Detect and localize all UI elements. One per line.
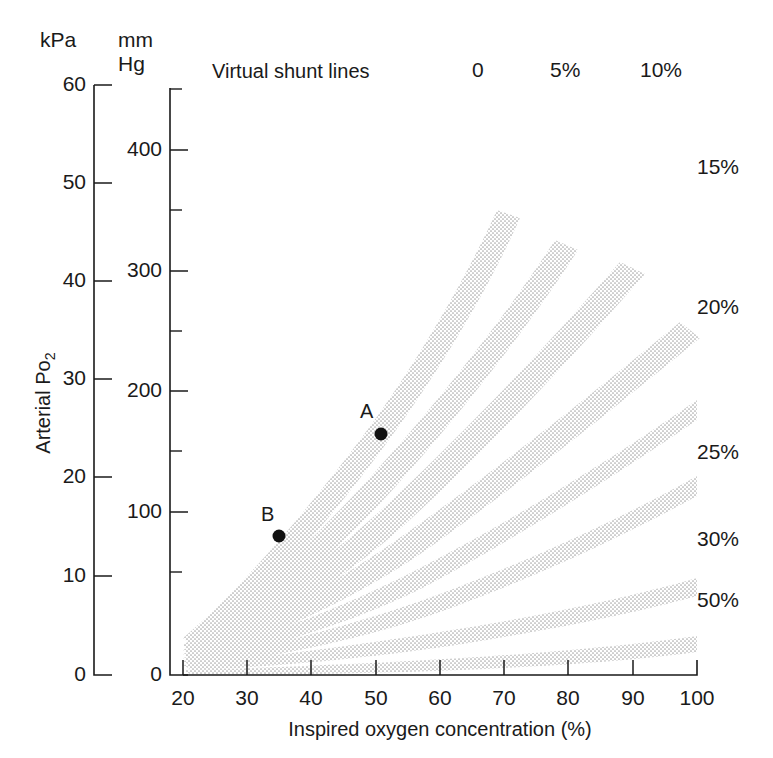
kpa-tick-50: 50 [50,170,86,194]
x-tick-100: 100 [673,686,721,710]
x-tick-60: 60 [420,686,460,710]
data-point-b-label: B [261,503,274,526]
shunt-label-5: 5% [550,58,580,82]
kpa-tick-10: 10 [50,563,86,587]
shunt-label-50: 50% [697,588,739,612]
mmhg-unit-label-line2: Hg [118,52,145,76]
shunt-label-10: 10% [640,58,682,82]
iso-shunt-diagram: kPa mm Hg 60 50 40 30 20 10 0 400 300 20… [0,0,773,758]
y-axis-title: Arterial Po2 [32,303,58,503]
mmhg-tick-400: 400 [104,137,162,161]
y-axis-title-subscript: 2 [42,352,58,360]
kpa-unit-label: kPa [40,28,76,52]
data-point-b[interactable] [273,530,286,543]
shunt-label-15: 15% [697,155,739,179]
x-tick-90: 90 [613,686,653,710]
shunt-label-30: 30% [697,527,739,551]
x-tick-80: 80 [548,686,588,710]
mmhg-tick-100: 100 [104,499,162,523]
mmhg-tick-200: 200 [104,378,162,402]
kpa-tick-0: 0 [50,662,86,686]
shunt-band-group [183,210,700,674]
mmhg-tick-300: 300 [104,258,162,282]
y-axis-title-text: Arterial Po [32,360,54,453]
mmhg-tick-0: 0 [104,662,162,686]
kpa-tick-40: 40 [50,268,86,292]
kpa-tick-60: 60 [50,72,86,96]
chart-note: Virtual shunt lines [212,60,370,83]
x-tick-70: 70 [484,686,524,710]
x-tick-50: 50 [356,686,396,710]
data-point-a-label: A [360,400,373,423]
x-tick-30: 30 [227,686,267,710]
x-axis-title: Inspired oxygen concentration (%) [183,718,697,741]
data-point-a[interactable] [375,428,388,441]
shunt-label-25: 25% [697,440,739,464]
mmhg-axis [170,88,188,675]
mmhg-unit-label-line1: mm [118,28,153,52]
shunt-label-20: 20% [697,295,739,319]
x-tick-40: 40 [291,686,331,710]
shunt-label-0: 0 [472,58,484,82]
x-tick-20: 20 [163,686,203,710]
